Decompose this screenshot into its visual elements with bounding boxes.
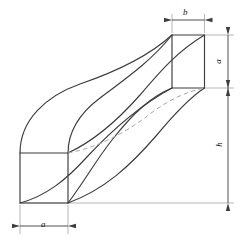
dimension-label-a-right: a: [214, 59, 223, 64]
lower-square-face: [20, 153, 68, 203]
warped-surface-curves: [20, 35, 205, 203]
dimension-label-b: b: [183, 8, 188, 17]
upper-square-face: [172, 35, 205, 88]
drawing-canvas: [0, 0, 242, 243]
dimension-lines-group: [20, 20, 228, 226]
hidden-curve-back-diagonal: [68, 88, 205, 153]
dimension-label-h: h: [215, 142, 224, 147]
hidden-edges: [68, 88, 205, 153]
dimension-label-a-bottom: a: [41, 220, 46, 229]
upper-face-outline: [172, 35, 205, 88]
curve-outer-lower-silhouette: [68, 88, 205, 203]
lower-face-outline: [20, 153, 68, 203]
technical-drawing-figure: b a h a: [0, 0, 242, 243]
curve-outer-upper-silhouette: [20, 35, 172, 153]
extension-lines-group: [20, 14, 234, 234]
curve-front-right-edge: [68, 88, 172, 203]
